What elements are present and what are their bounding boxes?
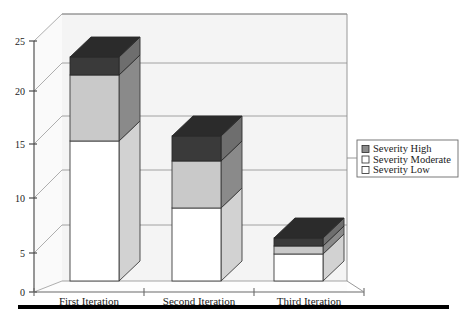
bar1-low-side: [119, 121, 140, 281]
bar-first-iteration[interactable]: [70, 37, 140, 281]
ytick-label-0: 0: [20, 287, 25, 298]
bar3-low-front: [274, 254, 323, 281]
bar1-moderate-front: [70, 75, 119, 141]
bar2-low-front: [172, 208, 221, 281]
ytick-label-15: 15: [15, 139, 25, 150]
bar2-moderate-front: [172, 161, 221, 208]
bar3-high-front: [274, 238, 323, 246]
legend-swatch-severity-high[interactable]: [362, 146, 369, 153]
chart-figure: 25 20 15 10 5 0: [0, 0, 467, 321]
bar2-high-front: [172, 136, 221, 161]
legend: Severity High Severity Moderate Severity…: [357, 140, 458, 177]
bar3-moderate-front: [274, 246, 323, 254]
legend-label-severity-low: Severity Low: [373, 164, 430, 175]
ytick-label-25: 25: [15, 36, 25, 47]
stacked-column-chart: 25 20 15 10 5 0: [0, 0, 467, 321]
bottom-divider-rule: [18, 305, 449, 309]
bar-second-iteration[interactable]: [172, 116, 242, 281]
bar1-high-front: [70, 57, 119, 75]
plot-left-wall: [34, 14, 62, 292]
ytick-label-10: 10: [15, 193, 25, 204]
bar1-low-front: [70, 141, 119, 281]
floor-right-edge: [347, 281, 364, 292]
bar-third-iteration[interactable]: [274, 218, 344, 281]
plot-floor: [34, 281, 347, 292]
legend-label-severity-high: Severity High: [373, 143, 432, 154]
legend-label-severity-moderate: Severity Moderate: [373, 154, 451, 165]
legend-swatch-severity-moderate[interactable]: [362, 156, 369, 163]
ytick-label-20: 20: [15, 86, 25, 97]
legend-swatch-severity-low[interactable]: [362, 167, 369, 174]
ytick-label-5: 5: [20, 248, 25, 259]
